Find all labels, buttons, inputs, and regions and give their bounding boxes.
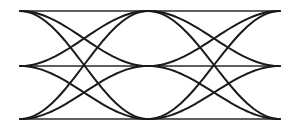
transition-trace [148,11,280,66]
transition-traces [20,11,280,119]
transition-trace [20,11,148,66]
eye-diagram [0,0,294,128]
transition-trace [20,66,148,119]
transition-trace [20,11,148,119]
transition-trace [148,66,280,119]
transition-trace [148,11,280,119]
